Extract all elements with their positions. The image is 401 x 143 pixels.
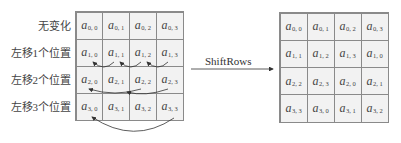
row1-shift-arrows-icon xyxy=(93,62,168,67)
row2-shift-arrows-icon xyxy=(89,89,168,94)
arrows-overlay xyxy=(0,0,401,143)
row3-shift-arrow-icon xyxy=(92,117,174,131)
